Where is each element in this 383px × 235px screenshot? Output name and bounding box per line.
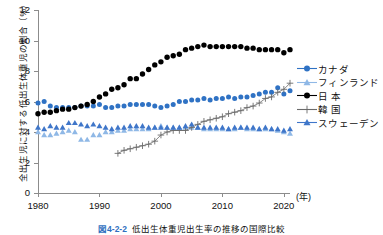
y-axis-tick-label: 4 [4, 126, 30, 137]
figure-container: 全出生児に対する低出生体重児の割合（%） 024681012 198019902… [0, 0, 383, 235]
legend-item-0[interactable]: カナダ [296, 62, 383, 76]
y-axis-tick-label: 0 [4, 187, 30, 198]
legend-item-1[interactable]: フィンランド [296, 76, 383, 90]
y-axis-title: 全出生児に対する低出生体重児の割合（%） [16, 2, 28, 182]
plot-area: 024681012 19801990200020102020 [38, 10, 290, 193]
x-axis-unit-label: (年) [296, 190, 311, 203]
x-axis-tick-label: 1980 [18, 200, 58, 211]
legend-marker-icon [296, 76, 318, 89]
caption-text: 低出生体重児出生率の推移の国際比較 [132, 224, 285, 234]
y-axis-tick-label: 8 [4, 65, 30, 76]
legend-item-label: 韓 国 [318, 102, 342, 116]
legend-item-label: スウェーデン [318, 116, 380, 130]
x-axis-tick [99, 193, 100, 197]
x-axis-tick [284, 193, 285, 197]
legend-marker-icon [296, 62, 318, 75]
figure-caption: 図4-2-2低出生体重児出生率の推移の国際比較 [0, 222, 383, 235]
x-axis-tick [222, 193, 223, 197]
x-axis-line [38, 193, 290, 194]
legend: カナダフィンランド日 本韓 国スウェーデン [296, 62, 383, 130]
x-axis-tick [38, 193, 39, 197]
legend-marker-icon [296, 89, 318, 102]
legend-item-label: 日 本 [318, 89, 342, 103]
legend-item-label: フィンランド [318, 75, 380, 89]
x-axis-tick-label: 2000 [141, 200, 181, 211]
legend-item-3[interactable]: 韓 国 [296, 103, 383, 117]
legend-marker-icon [296, 103, 318, 116]
x-axis-tick-label: 1990 [79, 200, 119, 211]
legend-item-label: カナダ [318, 62, 349, 76]
caption-number: 図4-2-2 [98, 224, 127, 234]
legend-item-4[interactable]: スウェーデン [296, 116, 383, 130]
data-series-layer [38, 10, 290, 193]
y-axis-tick-label: 6 [4, 96, 30, 107]
x-axis-tick [161, 193, 162, 197]
legend-item-2[interactable]: 日 本 [296, 89, 383, 103]
y-axis-tick-label: 12 [4, 4, 30, 15]
x-axis-tick-label: 2010 [202, 200, 242, 211]
y-axis-tick-label: 10 [4, 35, 30, 46]
legend-marker-icon [296, 116, 318, 129]
y-axis-tick-label: 2 [4, 157, 30, 168]
